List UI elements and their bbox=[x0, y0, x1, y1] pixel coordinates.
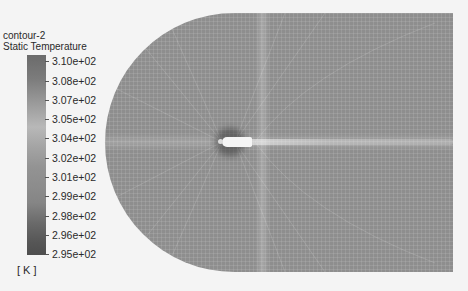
tick bbox=[45, 177, 49, 178]
colorbar-label: 3.05e+02 bbox=[52, 113, 96, 125]
colorbar-label: 3.08e+02 bbox=[52, 75, 96, 87]
colorbar-label: 2.98e+02 bbox=[52, 210, 96, 222]
colorbar-label: 3.04e+02 bbox=[52, 132, 96, 144]
legend-variable: Static Temperature bbox=[3, 41, 87, 53]
wake-region bbox=[245, 139, 453, 145]
body-nose bbox=[218, 139, 223, 144]
tick bbox=[45, 61, 49, 62]
colorbar-label: 3.10e+02 bbox=[52, 55, 96, 67]
colorbar-label: 3.02e+02 bbox=[52, 152, 96, 164]
colorbar bbox=[27, 55, 46, 255]
contour-plot-domain bbox=[105, 13, 453, 272]
colorbar-label: 2.95e+02 bbox=[52, 248, 96, 260]
tick bbox=[45, 158, 49, 159]
unit-label: [ K ] bbox=[17, 264, 37, 276]
colorbar-label: 2.96e+02 bbox=[52, 229, 96, 241]
colorbar-label: 3.07e+02 bbox=[52, 94, 96, 106]
body-geometry bbox=[222, 137, 252, 147]
tick bbox=[45, 119, 49, 120]
tick bbox=[45, 196, 49, 197]
tick bbox=[45, 100, 49, 101]
colorbar-label: 3.01e+02 bbox=[52, 171, 96, 183]
tick bbox=[45, 235, 49, 236]
tick bbox=[45, 216, 49, 217]
tick bbox=[45, 81, 49, 82]
tick bbox=[45, 254, 49, 255]
tick bbox=[45, 138, 49, 139]
colorbar-label: 2.99e+02 bbox=[52, 190, 96, 202]
